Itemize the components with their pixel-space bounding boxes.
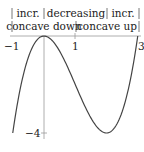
label-concave-down: concave down (6, 20, 82, 32)
label-increasing-left: incr. (16, 7, 39, 19)
concavity-row: concave down concave up (6, 20, 139, 32)
label-increasing-right: incr. (111, 7, 134, 19)
x-tick-label-neg1: −1 (4, 40, 19, 52)
monotonicity-row: incr. decreasing incr. (12, 7, 139, 19)
x-tick-label-3: 3 (138, 40, 144, 52)
label-decreasing: decreasing (47, 7, 106, 19)
x-tick-label-1: 1 (72, 40, 79, 52)
graph-diagram: incr. decreasing incr. concave down conc… (0, 0, 144, 152)
label-concave-up: concave up (77, 20, 137, 32)
y-tick-label-neg4: −4 (25, 127, 41, 139)
